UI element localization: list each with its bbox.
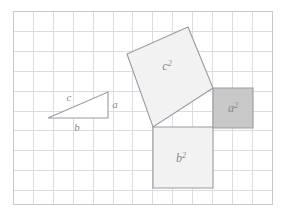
label-side-b: b — [74, 121, 80, 133]
label-side-a: a — [112, 98, 118, 110]
label-square-a-exponent: 2 — [234, 101, 238, 110]
label-side-c: c — [67, 91, 72, 103]
label-square-c-exponent: 2 — [168, 59, 172, 68]
diagram-canvas: a b c c2 b2 a2 — [0, 0, 292, 217]
pythagorean-diagram: a b c c2 b2 a2 — [0, 0, 292, 217]
label-square-b-exponent: 2 — [182, 151, 186, 160]
